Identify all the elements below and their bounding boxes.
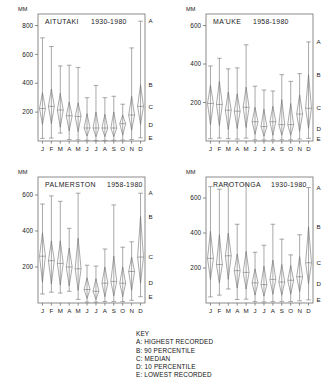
svg-text:600: 600 xyxy=(190,22,201,29)
svg-text:M: M xyxy=(76,145,81,152)
svg-text:PALMERSTON: PALMERSTON xyxy=(45,181,96,188)
svg-text:M: M xyxy=(226,145,231,152)
svg-text:J: J xyxy=(209,307,212,314)
svg-text:N: N xyxy=(129,145,133,152)
panel-rarotonga: MM200400600RAROTONGA1930-1980JFMAMJJASON… xyxy=(168,163,335,325)
svg-text:B: B xyxy=(149,213,153,220)
svg-text:M: M xyxy=(58,145,63,152)
svg-text:J: J xyxy=(94,307,97,314)
svg-text:O: O xyxy=(288,307,293,314)
svg-text:600: 600 xyxy=(190,194,201,201)
svg-text:D: D xyxy=(138,145,143,152)
svg-text:J: J xyxy=(262,307,265,314)
svg-text:D: D xyxy=(317,125,322,132)
svg-text:800: 800 xyxy=(22,22,33,29)
panel-mauke: MM200400600MA'UKE1958-1980JFMAMJJASONDAB… xyxy=(168,0,335,163)
svg-text:MM: MM xyxy=(186,169,196,175)
svg-text:D: D xyxy=(149,279,154,286)
svg-text:MM: MM xyxy=(18,6,28,12)
svg-text:400: 400 xyxy=(22,79,33,86)
svg-text:N: N xyxy=(129,307,133,314)
svg-text:MA'UKE: MA'UKE xyxy=(213,18,241,25)
svg-text:M: M xyxy=(226,307,231,314)
svg-text:S: S xyxy=(112,307,116,314)
svg-text:D: D xyxy=(306,307,311,314)
svg-text:M: M xyxy=(244,145,249,152)
panel-palmerston: MM200400600PALMERSTON1958-1980JFMAMJJASO… xyxy=(0,163,167,325)
svg-text:200: 200 xyxy=(22,108,33,115)
svg-text:C: C xyxy=(149,253,154,260)
svg-text:A: A xyxy=(271,145,276,152)
svg-text:E: E xyxy=(149,134,153,141)
panel-grid: MM200400600800AITUTAKI1930-1980JFMAMJJAS… xyxy=(0,0,335,325)
key-item-d: D: 10 PERCENTILE xyxy=(136,363,316,371)
svg-text:E: E xyxy=(317,296,321,303)
svg-text:N: N xyxy=(297,145,301,152)
svg-text:A: A xyxy=(317,184,322,191)
svg-text:J: J xyxy=(41,145,44,152)
svg-text:D: D xyxy=(306,145,311,152)
svg-text:A: A xyxy=(103,145,108,152)
key-item-c: C: MEDIAN xyxy=(136,355,316,363)
svg-text:F: F xyxy=(217,145,221,152)
svg-text:S: S xyxy=(280,307,284,314)
svg-text:600: 600 xyxy=(22,191,33,198)
svg-text:J: J xyxy=(94,145,97,152)
svg-text:A: A xyxy=(103,307,108,314)
svg-text:O: O xyxy=(120,145,125,152)
svg-text:A: A xyxy=(235,307,240,314)
key-heading: KEY xyxy=(136,330,316,338)
svg-text:A: A xyxy=(149,189,154,196)
svg-text:S: S xyxy=(280,145,284,152)
svg-text:C: C xyxy=(317,259,322,266)
svg-text:MM: MM xyxy=(186,6,196,12)
svg-text:200: 200 xyxy=(190,99,201,106)
svg-text:A: A xyxy=(271,307,276,314)
key-item-e: E: LOWEST RECORDED xyxy=(136,371,316,379)
svg-text:200: 200 xyxy=(190,264,201,271)
key-item-a: A: HIGHEST RECORDED xyxy=(136,338,316,346)
svg-text:N: N xyxy=(297,307,301,314)
svg-text:M: M xyxy=(244,307,249,314)
svg-text:O: O xyxy=(288,145,293,152)
svg-text:MM: MM xyxy=(18,169,28,175)
svg-text:F: F xyxy=(49,145,53,152)
svg-text:A: A xyxy=(149,17,154,24)
svg-text:F: F xyxy=(217,307,221,314)
svg-text:B: B xyxy=(149,81,153,88)
svg-text:1930-1980: 1930-1980 xyxy=(271,181,307,188)
svg-text:D: D xyxy=(138,307,143,314)
svg-text:1958-1980: 1958-1980 xyxy=(253,18,289,25)
svg-text:A: A xyxy=(67,307,72,314)
svg-text:200: 200 xyxy=(22,263,33,270)
svg-text:E: E xyxy=(317,135,321,142)
svg-text:A: A xyxy=(67,145,72,152)
svg-text:M: M xyxy=(76,307,81,314)
svg-text:J: J xyxy=(85,307,88,314)
svg-text:J: J xyxy=(253,145,256,152)
svg-text:J: J xyxy=(253,307,256,314)
svg-text:B: B xyxy=(317,223,321,230)
svg-text:M: M xyxy=(58,307,63,314)
svg-text:F: F xyxy=(49,307,53,314)
svg-text:J: J xyxy=(262,145,265,152)
panel-aitutaki: MM200400600800AITUTAKI1930-1980JFMAMJJAS… xyxy=(0,0,167,163)
svg-text:J: J xyxy=(41,307,44,314)
svg-text:C: C xyxy=(149,103,154,110)
svg-text:AITUTAKI: AITUTAKI xyxy=(45,18,79,25)
svg-text:B: B xyxy=(317,71,321,78)
svg-text:400: 400 xyxy=(190,229,201,236)
svg-text:400: 400 xyxy=(190,60,201,67)
svg-text:A: A xyxy=(317,38,322,45)
key-legend: KEY A: HIGHEST RECORDED B: 90 PERCENTILE… xyxy=(136,330,316,380)
svg-text:C: C xyxy=(317,104,322,111)
svg-text:RAROTONGA: RAROTONGA xyxy=(213,181,261,188)
svg-text:O: O xyxy=(120,307,125,314)
svg-text:S: S xyxy=(112,145,116,152)
svg-text:D: D xyxy=(317,280,322,287)
svg-text:600: 600 xyxy=(22,51,33,58)
svg-text:A: A xyxy=(235,145,240,152)
svg-text:J: J xyxy=(209,145,212,152)
svg-text:400: 400 xyxy=(22,227,33,234)
svg-text:1930-1980: 1930-1980 xyxy=(91,18,127,25)
